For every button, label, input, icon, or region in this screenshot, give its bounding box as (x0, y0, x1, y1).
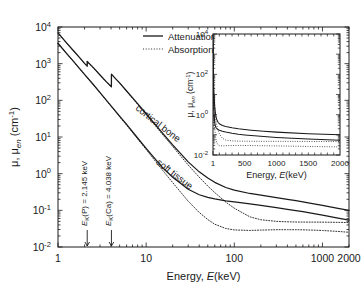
x-axis-label: Energy, E(keV) (167, 270, 241, 282)
y-tick-label: 104 (35, 20, 51, 34)
y-axis-label: μ, μen (cm-1) (7, 107, 23, 167)
curve-label-soft-tissue: soft tissue (155, 156, 195, 191)
inset-x-tick-label: 1500 (299, 159, 317, 168)
k-edge-phosphorus-label: EK(P) = 2.145 keV (80, 160, 90, 226)
x-tick-label: 100 (226, 252, 244, 264)
y-tick-label: 100 (35, 166, 51, 180)
x-tick-label: 1000 (311, 252, 335, 264)
inset-x-axis-label: Energy, E(keV) (246, 170, 306, 180)
curve-label-cortical-bone: cortical bone (134, 102, 183, 144)
y-tick-label: 10-2 (33, 240, 51, 254)
inset-x-tick-label: 1000 (268, 159, 286, 168)
y-tick-label: 10-1 (33, 203, 51, 217)
inset-plot-frame (213, 34, 340, 155)
x-tick-label: 1 (55, 252, 61, 264)
x-tick-label: 2000 (337, 252, 361, 264)
inset-y-tick-label: 102 (196, 69, 209, 80)
inset-y-tick-label: 100 (196, 109, 209, 120)
inset-x-tick-label: 500 (238, 159, 252, 168)
k-edge-calcium-label: EK(Ca) = 4.038 keV (104, 155, 114, 226)
figure-container: 1101001000200010-210-1100101102103104Ene… (0, 0, 364, 293)
inset-x-tick-label: 1 (211, 159, 216, 168)
inset-y-axis-label: μ, μen (cm-1) (185, 71, 196, 117)
attenuation-coefficient-chart: 1101001000200010-210-1100101102103104Ene… (0, 0, 364, 293)
y-tick-label: 101 (35, 130, 51, 144)
inset-y-tick-label: 10-2 (194, 150, 209, 161)
inset-x-tick-label: 2000 (331, 159, 349, 168)
x-tick-label: 10 (140, 252, 152, 264)
y-tick-label: 102 (35, 93, 51, 107)
y-tick-label: 103 (35, 56, 51, 70)
